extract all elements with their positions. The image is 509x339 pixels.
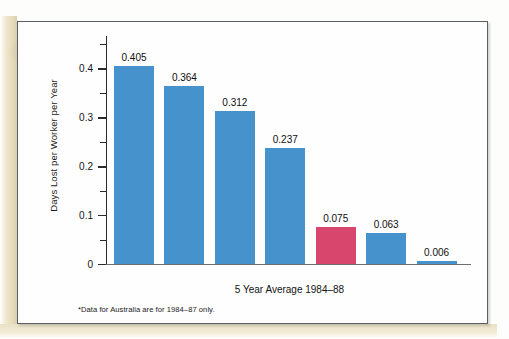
y-tick-major: 0	[98, 264, 106, 265]
bar[interactable]	[114, 66, 154, 264]
bar-value-label: 0.237	[273, 134, 298, 145]
x-axis-line	[106, 264, 471, 265]
y-tick-label: 0	[87, 259, 93, 270]
chart-footnote: *Data for Australia are for 1984–87 only…	[78, 305, 215, 314]
bar[interactable]	[316, 227, 356, 264]
y-tick-label: 0.1	[79, 210, 93, 221]
y-axis-title: Days Lost per Worker per Year	[48, 58, 59, 233]
bar[interactable]	[215, 111, 255, 264]
bar[interactable]	[265, 148, 305, 264]
scanned-chart-screenshot: Days Lost per Worker per Year 00.10.20.3…	[0, 0, 509, 339]
y-tick-label: 0.2	[79, 161, 93, 172]
bar-value-label: 0.364	[172, 72, 197, 83]
y-tick-major: 0.3	[98, 117, 106, 118]
bar-value-label: 0.075	[323, 213, 348, 224]
y-tick-label: 0.4	[79, 63, 93, 74]
y-tick-major: 0.1	[98, 215, 106, 216]
bar-value-label: 0.312	[222, 97, 247, 108]
bar-value-label: 0.405	[121, 52, 146, 63]
plot-area: 00.10.20.30.4 0.405GreatBritain0.364Cana…	[106, 44, 473, 264]
bar[interactable]	[164, 86, 204, 264]
page-edge-bottom	[0, 324, 497, 339]
bar-series: 0.405GreatBritain0.364Canada0.312Italy0.…	[106, 44, 473, 264]
bar-value-label: 0.063	[374, 219, 399, 230]
bar[interactable]	[417, 261, 457, 264]
page-edge-left	[0, 16, 17, 328]
figure-frame: Days Lost per Worker per Year 00.10.20.3…	[17, 21, 488, 324]
bar-value-label: 0.006	[424, 247, 449, 258]
bar[interactable]	[366, 233, 406, 264]
bar-chart: Days Lost per Worker per Year 00.10.20.3…	[18, 22, 487, 323]
y-tick-major: 0.4	[98, 68, 106, 69]
y-tick-label: 0.3	[79, 112, 93, 123]
chart-subtitle: 5 Year Average 1984–88	[106, 284, 473, 295]
y-tick-major: 0.2	[98, 166, 106, 167]
